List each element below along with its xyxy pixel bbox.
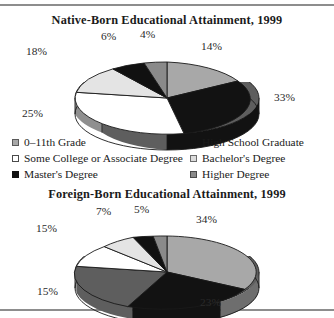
legend-item-higher-degree[interactable]: Higher Degree	[185, 166, 334, 182]
foreign-born-chart-title: Foreign-Born Educational Attainment, 199…	[0, 187, 334, 202]
legend-item-bachelors-degree[interactable]: Bachelor's Degree	[185, 150, 334, 166]
legend-label-0-11th-grade: 0–11th Grade	[24, 136, 86, 149]
legend-swatch-icon-high-school-graduate	[190, 139, 197, 146]
legend-swatch-icon-some-college	[12, 155, 19, 162]
legend-row: 0–11th Grade High School Graduate	[0, 134, 334, 150]
legend-swatch-icon-0-11th-grade	[12, 139, 19, 146]
foreign-label-7-percent: 7%	[96, 205, 111, 217]
native-label-4-percent: 4%	[140, 28, 155, 40]
foreign-born-pie-chart: 34% 23% 15% 15% 7% 5%	[0, 202, 334, 312]
legend-label-higher-degree: Higher Degree	[202, 168, 269, 181]
foreign-label-15-percent-lower: 15%	[37, 285, 58, 297]
top-divider	[0, 4, 334, 6]
legend-swatch-icon-higher-degree	[190, 171, 197, 178]
legend-row: Master's Degree Higher Degree	[0, 166, 334, 182]
pie-top-face-bottom-chart	[74, 236, 256, 309]
native-born-pie-svg	[63, 46, 271, 138]
legend-item-0-11th-grade[interactable]: 0–11th Grade	[0, 134, 185, 150]
foreign-label-5-percent: 5%	[134, 203, 149, 215]
native-born-pie-chart: 14% 33% 25% 18% 6% 4%	[0, 28, 334, 138]
legend-label-masters-degree: Master's Degree	[24, 168, 98, 181]
native-born-pie-stage	[63, 46, 271, 138]
native-label-33-percent: 33%	[274, 91, 295, 103]
legend-item-high-school-graduate[interactable]: High School Graduate	[185, 134, 334, 150]
legend-label-some-college: Some College or Associate Degree	[24, 152, 183, 165]
foreign-born-pie-svg	[63, 220, 271, 312]
educational-attainment-figure: Native-Born Educational Attainment, 1999	[0, 0, 334, 318]
chart-legend: 0–11th Grade High School Graduate Some C…	[0, 134, 334, 184]
native-born-chart-title: Native-Born Educational Attainment, 1999	[0, 13, 334, 28]
native-label-6-percent: 6%	[101, 30, 116, 42]
legend-swatch-icon-masters-degree	[12, 171, 19, 178]
legend-row: Some College or Associate Degree Bachelo…	[0, 150, 334, 166]
native-label-25-percent: 25%	[22, 107, 43, 119]
legend-item-masters-degree[interactable]: Master's Degree	[0, 166, 185, 182]
legend-label-bachelors-degree: Bachelor's Degree	[202, 152, 285, 165]
foreign-label-15-percent-upper: 15%	[36, 222, 57, 234]
foreign-born-pie-stage	[63, 220, 271, 312]
legend-swatch-icon-bachelors-degree	[190, 155, 197, 162]
legend-label-high-school-graduate: High School Graduate	[202, 136, 304, 149]
pie-top-face-top-chart	[75, 62, 250, 134]
native-label-14-percent: 14%	[201, 40, 222, 52]
foreign-label-23-percent: 23%	[200, 296, 221, 308]
native-label-18-percent: 18%	[26, 45, 47, 57]
legend-item-some-college[interactable]: Some College or Associate Degree	[0, 150, 185, 166]
foreign-label-34-percent: 34%	[196, 213, 217, 225]
